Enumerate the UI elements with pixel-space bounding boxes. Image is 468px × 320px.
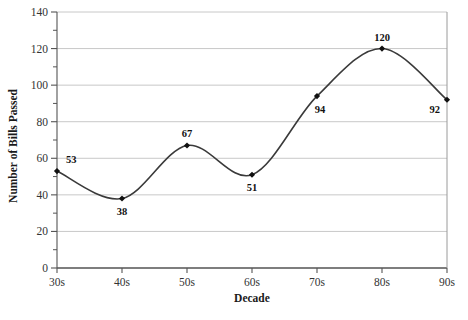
data-value-label: 53 <box>66 154 77 165</box>
y-tick-label: 120 <box>31 43 49 55</box>
data-value-label: 94 <box>315 104 326 115</box>
y-tick-label: 80 <box>37 116 49 128</box>
x-axis-title: Decade <box>234 292 270 304</box>
data-value-label: 67 <box>182 128 193 139</box>
data-value-label: 92 <box>430 104 441 115</box>
line-chart: 020406080100120140 30s40s50s60s70s80s90s… <box>0 0 468 320</box>
x-tick-label: 40s <box>114 276 131 288</box>
chart-container: 020406080100120140 30s40s50s60s70s80s90s… <box>0 0 468 320</box>
y-tick-label: 0 <box>42 262 48 274</box>
data-value-label: 38 <box>117 206 128 217</box>
x-tick-label: 60s <box>244 276 261 288</box>
x-tick-label: 50s <box>179 276 196 288</box>
data-value-label: 51 <box>247 182 258 193</box>
y-tick-label: 140 <box>31 6 49 18</box>
y-tick-label: 40 <box>37 189 49 201</box>
y-tick-label: 60 <box>37 152 49 164</box>
x-tick-label: 80s <box>374 276 391 288</box>
y-tick-label: 100 <box>31 79 49 91</box>
y-tick-label: 20 <box>37 225 49 237</box>
x-tick-label: 70s <box>309 276 326 288</box>
x-tick-label: 30s <box>49 276 66 288</box>
data-value-label: 120 <box>374 32 390 43</box>
x-tick-label: 90s <box>439 276 456 288</box>
y-axis-title: Number of Bills Passed <box>7 88 19 202</box>
